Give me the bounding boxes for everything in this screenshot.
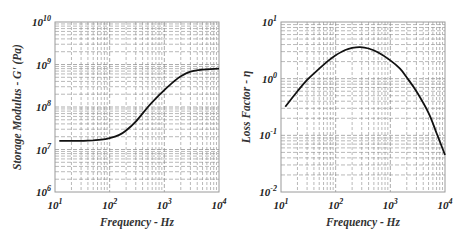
x-tick-label: 103 (383, 197, 398, 211)
x-tick-label: 103 (157, 197, 172, 211)
x-tick-label: 104 (438, 197, 453, 211)
y-tick-label: 107 (36, 142, 52, 156)
y-axis-label-storage-modulus: Storage Modulus - G' (Pa) (11, 44, 24, 170)
x-tick-label: 101 (274, 197, 289, 211)
y-tick-label: 100 (262, 71, 277, 85)
y-tick-label: 10-2 (259, 184, 277, 198)
x-axis-label-frequency-right: Frequency - Hz (325, 216, 401, 229)
x-tick-label: 101 (48, 197, 63, 211)
storage-modulus-plot: 1011021031041010109108107106 (32, 14, 227, 211)
x-tick-label: 104 (212, 197, 227, 211)
y-tick-label: 10-1 (259, 127, 277, 141)
loss-factor-plot: 10110210310410110010-110-2 (259, 14, 452, 211)
y-tick-label: 101 (262, 14, 277, 28)
y-tick-label: 106 (36, 184, 51, 198)
y-tick-label: 109 (36, 57, 51, 71)
x-axis-label-frequency-left: Frequency - Hz (99, 216, 175, 229)
chart-canvas: 1011021031041010109108107106 10110210310… (0, 0, 464, 242)
x-tick-label: 102 (328, 197, 343, 211)
data-curve (59, 69, 219, 141)
grid (55, 22, 219, 192)
y-axis-label-loss-factor: Loss Factor - η (240, 71, 253, 144)
y-tick-label: 1010 (32, 14, 51, 28)
y-tick-label: 108 (36, 99, 51, 113)
x-tick-label: 102 (102, 197, 117, 211)
